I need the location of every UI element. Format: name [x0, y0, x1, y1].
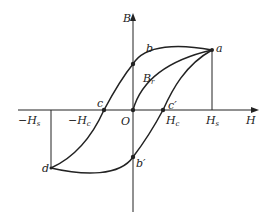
h-axis-arrow-icon	[251, 107, 259, 113]
origin-label: O	[121, 115, 130, 128]
point-origin	[131, 108, 135, 112]
point-c-prime	[161, 108, 165, 112]
b-axis-label: B	[122, 12, 131, 25]
point-d	[50, 167, 53, 170]
hysteresis-diagram: B H O a b c c′ d b′ Br −Hs −Hc Hc Hs	[0, 0, 275, 224]
label-hc: Hc	[165, 114, 180, 128]
point-b	[131, 62, 135, 66]
label-d: d	[42, 162, 49, 175]
point-a	[210, 48, 214, 52]
label-br: Br	[142, 72, 155, 86]
label-neg-hc: −Hc	[68, 114, 91, 128]
label-c: c	[97, 97, 103, 110]
label-b: b	[146, 42, 153, 55]
diagram-canvas: B H O a b c c′ d b′ Br −Hs −Hc Hc Hs	[0, 0, 275, 224]
label-a: a	[216, 42, 223, 55]
label-neg-hs: −Hs	[18, 114, 41, 128]
h-axis-label: H	[245, 114, 256, 127]
label-c-prime: c′	[168, 99, 177, 112]
point-b-prime	[131, 155, 135, 159]
label-b-prime: b′	[136, 157, 146, 170]
label-hs: Hs	[205, 114, 220, 128]
